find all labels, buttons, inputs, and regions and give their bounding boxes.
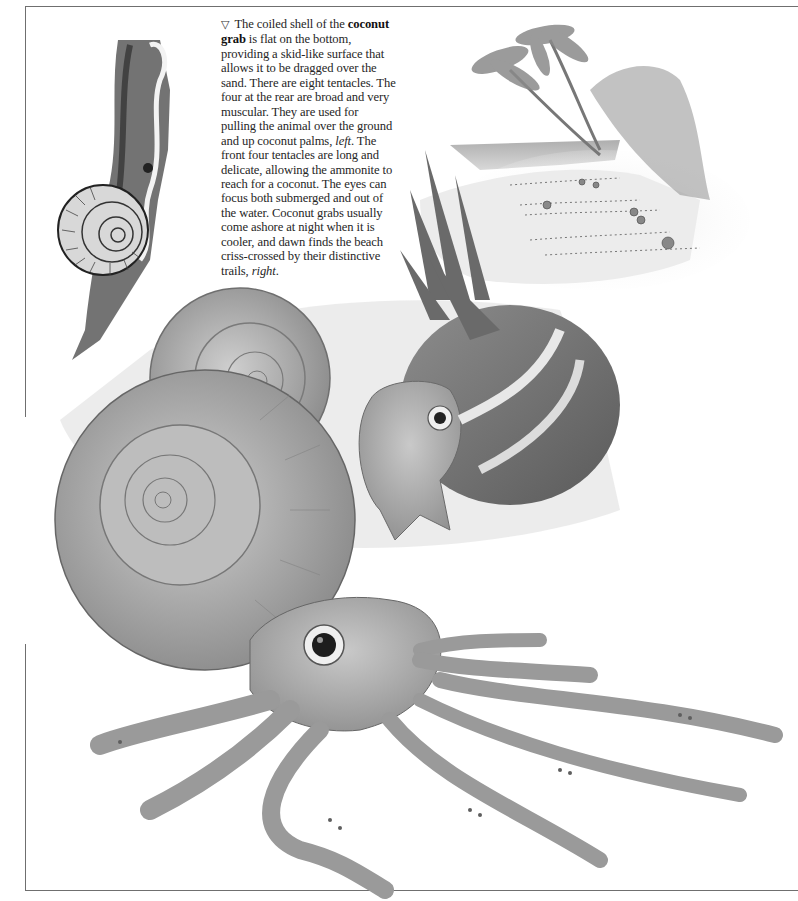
illustration-canvas — [0, 0, 798, 901]
triangle-down-icon: ▽ — [221, 18, 229, 31]
caption-text-block: ▽The coiled shell of the coconut grab is… — [221, 17, 396, 278]
caption-body-1: is flat on the bottom, providing a skid-… — [221, 32, 396, 147]
sketch-coconut-grab-icon — [58, 40, 170, 360]
caption-ref-left: left — [335, 134, 351, 148]
caption-intro: The coiled shell of the — [234, 17, 347, 31]
caption-body-2: . The front four tentacles are long and … — [221, 134, 392, 278]
caption-ref-right: right — [252, 264, 276, 278]
caption-end: . — [276, 264, 279, 278]
